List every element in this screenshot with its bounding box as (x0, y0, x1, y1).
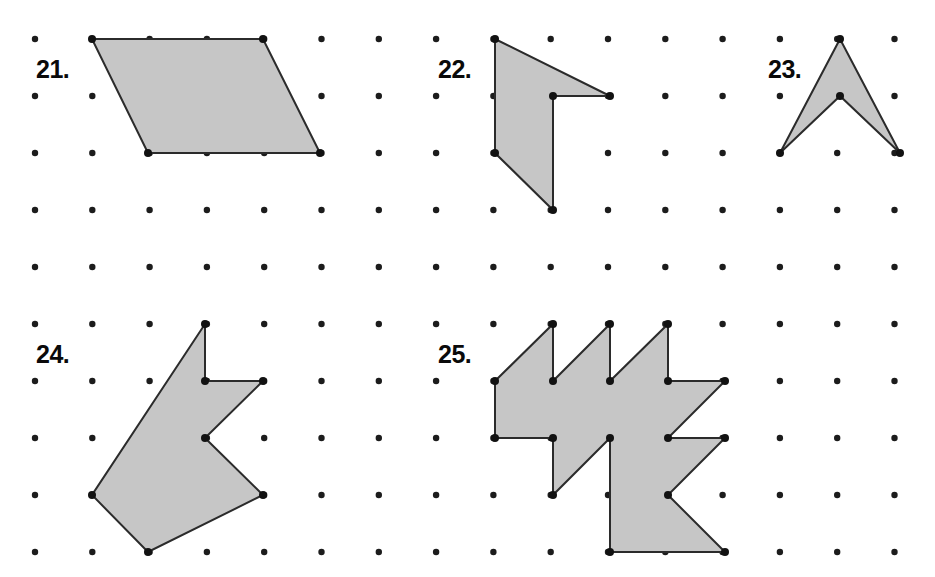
grid-dot (719, 321, 725, 327)
grid-dot (261, 435, 267, 441)
grid-dot (719, 207, 725, 213)
grid-dot (548, 549, 554, 555)
vertex-dot (491, 377, 499, 385)
grid-dot (605, 150, 611, 156)
vertex-dot (721, 548, 729, 556)
vertex-dot (836, 92, 844, 100)
grid-dot (318, 264, 324, 270)
problem-number-label: 22. (438, 55, 471, 83)
grid-dot (433, 435, 439, 441)
grid-dot (32, 549, 38, 555)
vertex-dot (88, 491, 96, 499)
grid-dot (490, 321, 496, 327)
grid-dot (834, 264, 840, 270)
grid-dot (318, 93, 324, 99)
grid-dot (719, 264, 725, 270)
grid-dot (891, 264, 897, 270)
grid-dot (433, 378, 439, 384)
grid-dot (32, 207, 38, 213)
grid-dot (834, 378, 840, 384)
grid-dot (433, 264, 439, 270)
vertex-dot (491, 35, 499, 43)
grid-dot (433, 492, 439, 498)
vertex-dot (549, 377, 557, 385)
grid-dot (146, 207, 152, 213)
vertex-dot (316, 149, 324, 157)
grid-dot (204, 549, 210, 555)
problem-number-label: 24. (36, 340, 69, 368)
grid-dot (662, 207, 668, 213)
grid-dot (777, 36, 783, 42)
vertex-dot (144, 548, 152, 556)
grid-dot (548, 264, 554, 270)
grid-dot (376, 549, 382, 555)
vertex-dot (836, 35, 844, 43)
grid-dot (376, 93, 382, 99)
grid-dot (834, 492, 840, 498)
vertex-dot (549, 320, 557, 328)
grid-dot (719, 492, 725, 498)
problem-number-label: 23. (768, 55, 801, 83)
grid-dot (433, 150, 439, 156)
grid-dot (32, 492, 38, 498)
grid-dot (662, 36, 668, 42)
grid-dot (891, 549, 897, 555)
problem-number-label: 25. (438, 340, 471, 368)
vertex-dot (549, 434, 557, 442)
grid-dot (777, 378, 783, 384)
grid-dot (548, 36, 554, 42)
grid-dot (433, 36, 439, 42)
grid-dot (719, 93, 725, 99)
grid-dot (32, 150, 38, 156)
grid-dot (433, 549, 439, 555)
grid-dot (891, 93, 897, 99)
vertex-dot (664, 320, 672, 328)
grid-dot (891, 207, 897, 213)
vertex-dot (201, 320, 209, 328)
grid-dot (662, 264, 668, 270)
grid-dot (318, 492, 324, 498)
vertex-dot (776, 149, 784, 157)
grid-dot (605, 36, 611, 42)
grid-dot (719, 150, 725, 156)
vertex-dot (201, 377, 209, 385)
grid-dot (318, 207, 324, 213)
vertex-dot (606, 434, 614, 442)
vertex-dot (491, 434, 499, 442)
vertex-dot (549, 491, 557, 499)
grid-dot (433, 321, 439, 327)
grid-dot (376, 264, 382, 270)
grid-dot (261, 549, 267, 555)
grid-dot (204, 264, 210, 270)
grid-dot (89, 321, 95, 327)
grid-dot (318, 435, 324, 441)
grid-dot (32, 378, 38, 384)
vertex-dot (606, 377, 614, 385)
vertex-dot (259, 491, 267, 499)
grid-dot (376, 36, 382, 42)
grid-dot (146, 378, 152, 384)
grid-dot (777, 549, 783, 555)
grid-dot (89, 150, 95, 156)
grid-dot (777, 264, 783, 270)
grid-dot (32, 93, 38, 99)
grid-dot (834, 321, 840, 327)
grid-dot (204, 207, 210, 213)
vertex-dot (606, 92, 614, 100)
grid-dot (662, 150, 668, 156)
grid-dot (719, 36, 725, 42)
grid-dot (146, 321, 152, 327)
grid-dot (891, 321, 897, 327)
grid-dot (662, 93, 668, 99)
vertex-dot (491, 149, 499, 157)
grid-dot (891, 435, 897, 441)
vertex-dot (549, 92, 557, 100)
grid-dot (89, 93, 95, 99)
grid-dot (891, 492, 897, 498)
grid-dot (490, 492, 496, 498)
problem-number-label: 21. (36, 55, 69, 83)
vertex-dot (664, 434, 672, 442)
grid-dot (318, 378, 324, 384)
grid-dot (376, 207, 382, 213)
vertex-dot (201, 434, 209, 442)
